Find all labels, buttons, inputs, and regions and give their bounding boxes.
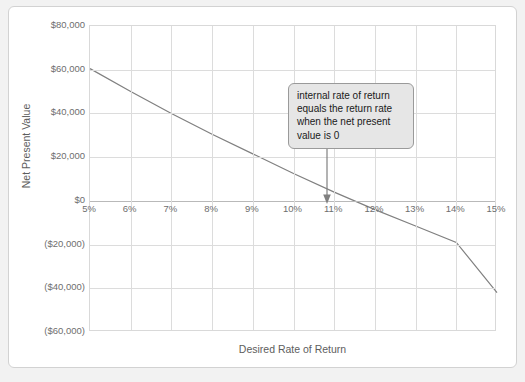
y-tick-label: $40,000 bbox=[13, 107, 85, 117]
gridline-horizontal bbox=[90, 157, 495, 158]
y-tick-label: $80,000 bbox=[13, 20, 85, 30]
gridline-vertical bbox=[253, 26, 254, 330]
zero-axis-line bbox=[90, 201, 495, 202]
x-tick-label: 13% bbox=[395, 203, 435, 214]
chart-card: Net Present Value $80,000$60,000$40,000$… bbox=[8, 6, 517, 368]
plot-area bbox=[89, 25, 496, 331]
x-tick-label: 7% bbox=[150, 203, 190, 214]
gridline-vertical bbox=[171, 26, 172, 330]
annotation-arrow-icon bbox=[315, 149, 339, 205]
y-tick-label: ($40,000) bbox=[13, 282, 85, 292]
gridline-vertical bbox=[212, 26, 213, 330]
x-axis-tick-labels: 5%6%7%8%9%10%11%12%13%14%15% bbox=[89, 203, 496, 217]
x-tick-label: 12% bbox=[354, 203, 394, 214]
gridline-horizontal bbox=[90, 245, 495, 246]
x-tick-label: 8% bbox=[191, 203, 231, 214]
x-tick-label: 15% bbox=[476, 203, 516, 214]
y-tick-label: ($20,000) bbox=[13, 239, 85, 249]
x-tick-label: 5% bbox=[69, 203, 109, 214]
gridline-vertical bbox=[456, 26, 457, 330]
gridline-vertical bbox=[294, 26, 295, 330]
annotation-callout: internal rate of return equals the retur… bbox=[288, 83, 414, 149]
gridline-vertical bbox=[131, 26, 132, 330]
x-tick-label: 10% bbox=[273, 203, 313, 214]
y-axis-tick-labels: $80,000$60,000$40,000$20,000$0($20,000)(… bbox=[9, 25, 85, 331]
x-axis-title: Desired Rate of Return bbox=[89, 343, 496, 355]
x-tick-label: 6% bbox=[110, 203, 150, 214]
gridline-horizontal bbox=[90, 70, 495, 71]
gridline-horizontal bbox=[90, 288, 495, 289]
gridline-vertical bbox=[375, 26, 376, 330]
x-tick-label: 9% bbox=[232, 203, 272, 214]
y-tick-label: $20,000 bbox=[13, 151, 85, 161]
y-tick-label: ($60,000) bbox=[13, 326, 85, 336]
x-tick-label: 14% bbox=[435, 203, 475, 214]
y-tick-label: $60,000 bbox=[13, 64, 85, 74]
gridline-vertical bbox=[416, 26, 417, 330]
